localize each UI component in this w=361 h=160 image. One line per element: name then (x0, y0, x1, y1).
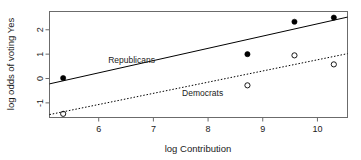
x-tick-label: 7 (151, 124, 156, 134)
scatter-plot: 678910 -1012 RepublicansDemocrats log Co… (0, 0, 361, 160)
y-tick-label: 0 (36, 76, 46, 81)
data-point-republicans (61, 75, 66, 80)
data-point-republicans (292, 19, 297, 24)
data-point-republicans (245, 52, 250, 57)
y-tick-label: 2 (36, 27, 46, 32)
annotation-republicans: Republicans (108, 55, 155, 65)
chart-container: 678910 -1012 RepublicansDemocrats log Co… (0, 0, 361, 160)
x-tick-label: 6 (96, 124, 101, 134)
x-tick-label: 8 (206, 124, 211, 134)
y-tick-label: 1 (36, 52, 46, 57)
x-tick-label: 10 (312, 124, 322, 134)
chart-background (0, 0, 361, 160)
y-tick-label: -1 (36, 99, 46, 107)
x-tick-label: 9 (260, 124, 265, 134)
y-axis-title: log odds of voting Yes (5, 18, 16, 111)
annotation-democrats: Democrats (182, 88, 223, 98)
x-axis-title: log Contribution (165, 143, 232, 154)
data-point-republicans (331, 15, 336, 20)
